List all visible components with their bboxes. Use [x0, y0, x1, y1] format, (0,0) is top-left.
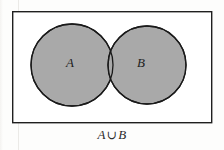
caption-left-operand: A	[98, 127, 106, 142]
caption-right-operand: B	[118, 127, 126, 142]
set-a-label: A	[65, 55, 74, 70]
figure-caption: A∪B	[0, 127, 224, 143]
venn-diagram-figure: A B A∪B	[0, 0, 224, 150]
set-b-label: B	[137, 55, 145, 70]
union-operator-icon: ∪	[106, 128, 118, 142]
